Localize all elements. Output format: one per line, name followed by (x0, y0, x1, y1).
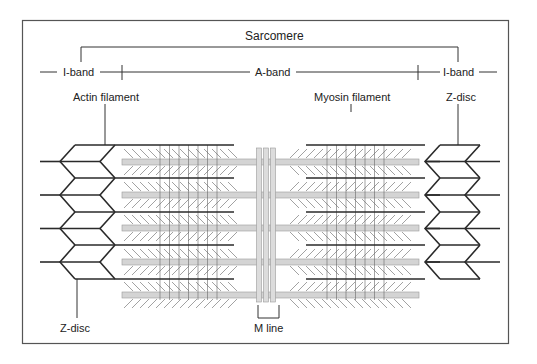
z-disc-right (425, 145, 500, 279)
actin-filament-label: Actin filament (73, 91, 139, 103)
sarcomere-diagram (0, 0, 537, 364)
sarcomere-bracket (81, 47, 458, 62)
z-disc-left (40, 145, 115, 279)
z-disc-top-label: Z-disc (446, 91, 476, 103)
z-disc-bottom-label: Z-disc (60, 322, 90, 334)
i-band-left-label: I-band (63, 66, 94, 78)
myosin-filament-label: Myosin filament (314, 91, 390, 103)
m-line-label: M line (254, 322, 283, 334)
m-line-bars (257, 148, 276, 302)
a-band-label: A-band (255, 66, 290, 78)
sarcomere-label: Sarcomere (245, 30, 304, 42)
i-band-right-label: I-band (443, 66, 474, 78)
